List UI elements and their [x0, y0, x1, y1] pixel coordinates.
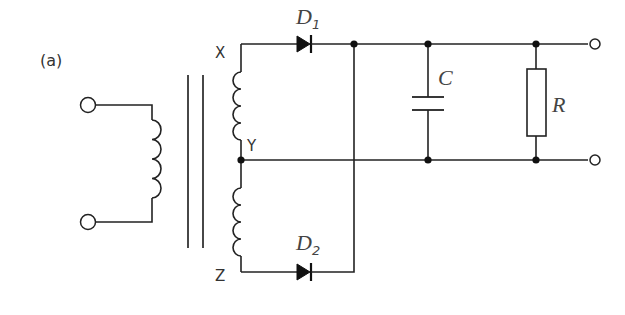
resistor-r[interactable] — [527, 44, 546, 160]
secondary-lower-coil-icon — [233, 188, 241, 256]
junction-dot — [532, 40, 539, 47]
d2-label: D2 — [295, 230, 320, 258]
diode-d1-icon[interactable] — [297, 35, 311, 53]
node-z-label: Z — [215, 267, 225, 285]
junction-dot — [532, 156, 539, 163]
input-terminal-top[interactable] — [81, 98, 96, 113]
primary-winding — [81, 98, 162, 230]
diode-d2-icon[interactable] — [297, 263, 311, 281]
rectifier-circuit-diagram: (a) X Y Z D1 — [0, 0, 625, 315]
output-terminal-positive[interactable] — [590, 39, 600, 49]
capacitor-c[interactable] — [412, 44, 444, 160]
junction-dot — [424, 156, 431, 163]
input-terminal-bottom[interactable] — [81, 215, 96, 230]
primary-coil-icon — [152, 120, 161, 198]
output-terminal-negative[interactable] — [590, 155, 600, 165]
capacitor-label: C — [438, 65, 453, 90]
resistor-label: R — [551, 92, 566, 117]
junction-dot — [350, 40, 357, 47]
node-y-label: Y — [246, 137, 257, 155]
junction-dots — [237, 40, 539, 163]
junction-dot-centre-tap — [237, 156, 244, 163]
transformer-core — [188, 75, 203, 248]
node-x-label: X — [215, 44, 225, 62]
panel-label: (a) — [40, 51, 62, 70]
d1-label: D1 — [295, 4, 320, 32]
secondary-upper-coil-icon — [233, 72, 241, 140]
junction-dot — [424, 40, 431, 47]
resistor-body-icon — [527, 69, 546, 136]
